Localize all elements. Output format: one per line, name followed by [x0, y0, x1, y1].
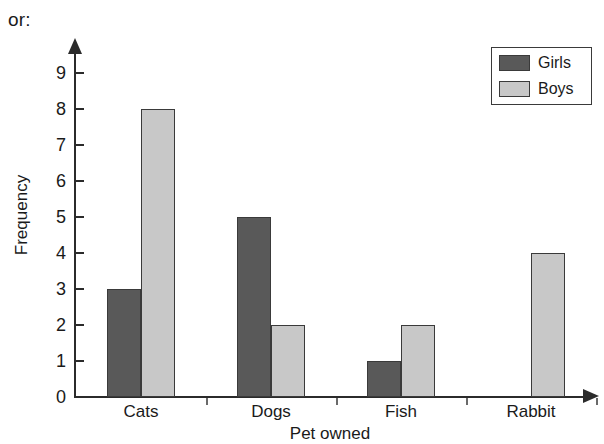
y-tick-label-0: 0	[40, 388, 66, 406]
y-tick-9	[76, 72, 84, 74]
y-tick-label-4: 4	[40, 244, 66, 262]
x-axis-title: Pet owned	[180, 424, 480, 444]
y-tick-3	[76, 288, 84, 290]
y-tick-6	[76, 180, 84, 182]
legend-item-boys[interactable]: Boys	[499, 79, 574, 99]
y-axis-arrow-icon	[68, 38, 82, 54]
y-tick-8	[76, 108, 84, 110]
x-tick-3	[596, 398, 598, 405]
y-tick-label-1: 1	[40, 352, 66, 370]
y-axis-title: Frequency	[12, 135, 32, 295]
x-tick-label-dogs: Dogs	[211, 402, 331, 422]
y-tick-label-9: 9	[40, 64, 66, 82]
x-tick-2	[466, 398, 468, 405]
legend-item-girls[interactable]: Girls	[499, 53, 571, 73]
x-tick-label-cats: Cats	[81, 402, 201, 422]
legend-label-boys: Boys	[538, 81, 574, 97]
bar-fish-boys	[401, 325, 435, 397]
y-tick-2	[76, 324, 84, 326]
bar-cats-boys	[141, 109, 175, 397]
y-tick-label-8: 8	[40, 100, 66, 118]
prefix-label: or:	[8, 9, 31, 31]
chart-canvas: or: 0123456789 CatsDogsFishRabbit Freque…	[0, 0, 604, 444]
y-tick-7	[76, 144, 84, 146]
legend-swatch-boys	[499, 81, 530, 97]
legend: Girls Boys	[491, 47, 592, 105]
y-tick-label-6: 6	[40, 172, 66, 190]
x-tick-0	[206, 398, 208, 405]
y-axis-line	[74, 52, 76, 398]
bar-dogs-girls	[237, 217, 271, 397]
y-tick-0	[76, 396, 84, 398]
x-tick-1	[336, 398, 338, 405]
y-tick-label-2: 2	[40, 316, 66, 334]
legend-swatch-girls	[499, 55, 530, 71]
y-tick-4	[76, 252, 84, 254]
y-tick-label-3: 3	[40, 280, 66, 298]
bar-rabbit-boys	[531, 253, 565, 397]
x-tick-label-rabbit: Rabbit	[471, 402, 591, 422]
bar-fish-girls	[367, 361, 401, 397]
y-tick-1	[76, 360, 84, 362]
y-tick-label-7: 7	[40, 136, 66, 154]
x-tick-label-fish: Fish	[341, 402, 461, 422]
y-tick-label-5: 5	[40, 208, 66, 226]
legend-label-girls: Girls	[538, 55, 571, 71]
bar-dogs-boys	[271, 325, 305, 397]
bar-cats-girls	[107, 289, 141, 397]
y-tick-5	[76, 216, 84, 218]
